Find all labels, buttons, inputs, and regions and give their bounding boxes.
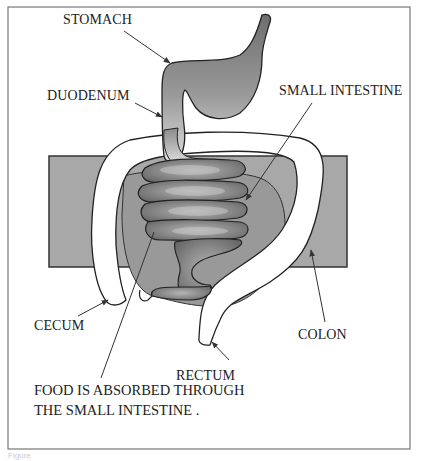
- label-stomach: STOMACH: [63, 12, 132, 28]
- rectum-pointer: [212, 342, 229, 360]
- label-colon: COLON: [298, 327, 347, 343]
- cecum-pointer: [78, 300, 108, 316]
- figure-label: Figure: [8, 451, 31, 460]
- label-duodenum: DUODENUM: [47, 88, 129, 104]
- duodenum-pointer: [135, 103, 162, 117]
- digestive-diagram: STOMACH DUODENUM SMALL INTESTINE CECUM C…: [0, 0, 430, 461]
- stomach-pointer: [124, 31, 170, 63]
- caption-line-2: THE SMALL INTESTINE .: [34, 400, 244, 420]
- caption: FOOD IS ABSORBED THROUGH THE SMALL INTES…: [34, 380, 244, 420]
- label-small-intestine: SMALL INTESTINE: [279, 83, 402, 99]
- label-cecum: CECUM: [34, 318, 84, 334]
- caption-line-1: FOOD IS ABSORBED THROUGH: [34, 380, 244, 400]
